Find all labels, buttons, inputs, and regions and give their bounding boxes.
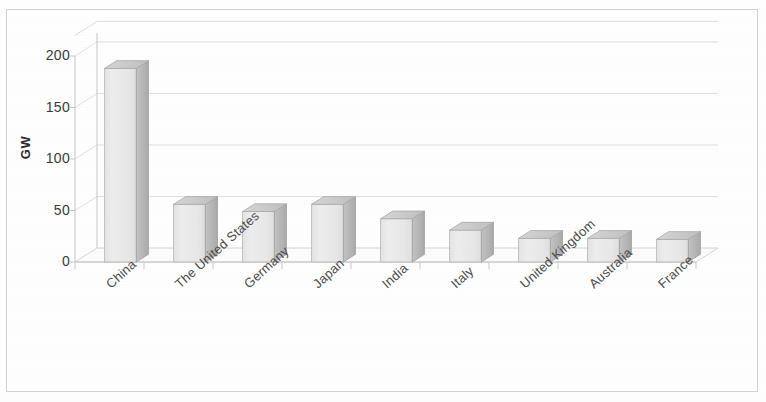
x-axis-tick-labels: ChinaThe United StatesGermanyJapanIndiaI… bbox=[0, 0, 766, 402]
chart-figure: 050100150200 GW ChinaThe United StatesGe… bbox=[0, 0, 766, 402]
x-tick-label: Australia bbox=[586, 245, 635, 291]
x-tick-label: France bbox=[655, 252, 696, 291]
x-tick-label: Japan bbox=[310, 256, 347, 292]
x-tick-label: Italy bbox=[448, 263, 476, 291]
x-tick-label: Germany bbox=[241, 243, 292, 291]
x-tick-label: China bbox=[103, 257, 139, 292]
x-tick-label: India bbox=[379, 260, 411, 291]
